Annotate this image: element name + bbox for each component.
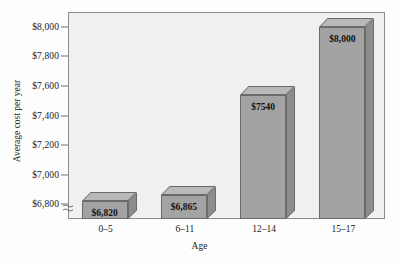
y-tick-label: $6,800 [0,199,59,209]
x-tick-label: 15–17 [308,224,378,234]
y-tick-mark [61,26,68,27]
bar-side-face [365,18,374,219]
bar: $7540 [240,95,286,219]
bar-side-face [286,86,295,219]
y-tick-label: $8,000 [0,22,59,32]
bar: $6,865 [161,195,207,219]
y-tick-mark [61,174,68,175]
y-tick-label: $7,600 [0,81,59,91]
bar: $8,000 [319,27,365,219]
x-tick-label: 0–5 [71,224,141,234]
axis-break-icon [62,203,74,215]
bar-front-face [319,27,365,219]
bar-top-face [82,192,137,201]
y-tick-label: $7,000 [0,170,59,180]
y-tick-mark [61,85,68,86]
bar-top-face [161,186,216,195]
y-tick-mark [61,145,68,146]
y-tick-mark [61,115,68,116]
bar-front-face [240,95,286,219]
x-axis-title: Age [0,241,399,251]
bar-chart: Average cost per year $8,000$7,800$7,600… [0,0,399,266]
y-tick-mark [61,56,68,57]
bar: $6,820 [82,201,128,219]
y-tick-label: $7,400 [0,111,59,121]
y-tick-label: $7,200 [0,140,59,150]
x-tick-label: 6–11 [150,224,220,234]
bar-value-label: $6,820 [82,208,128,218]
bar-top-face [240,86,295,95]
y-tick-label: $7,800 [0,51,59,61]
bar-value-label: $8,000 [319,34,365,44]
x-tick-label: 12–14 [229,224,299,234]
bar-top-face [319,18,374,27]
bar-value-label: $6,865 [161,202,207,212]
bar-value-label: $7540 [240,102,286,112]
